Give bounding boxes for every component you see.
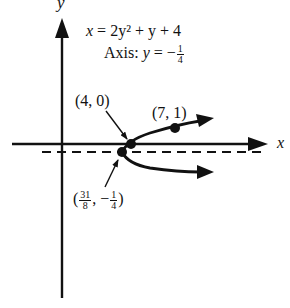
pointer-4-0 (106, 111, 127, 139)
x-axis-arrow-icon (248, 137, 268, 151)
fraction: 14 (177, 44, 184, 65)
y-axis-label: y (57, 0, 65, 11)
x-axis-label: x (277, 135, 284, 151)
pointer-vertex (105, 160, 118, 187)
parabola-diagram: y x x = 2y² + y + 4 Axis: y = −14 (4, 0)… (0, 0, 290, 308)
lower-branch-arrow-icon (197, 165, 214, 179)
x-axis (12, 137, 268, 151)
parabola-lower-branch (122, 152, 200, 172)
axis-of-symmetry-label: Axis: y = −14 (104, 44, 185, 65)
point-label-4-0: (4, 0) (75, 93, 110, 109)
point-7-1 (170, 123, 180, 133)
point-label-7-1: (7, 1) (152, 105, 187, 121)
upper-branch-arrow-icon (196, 114, 214, 127)
vertex-label: (318, −14) (73, 190, 124, 211)
y-axis-arrow-icon (55, 18, 69, 38)
fraction: 14 (110, 190, 117, 211)
y-axis (55, 18, 69, 298)
vertex-point (117, 147, 127, 157)
fraction: 318 (79, 190, 91, 211)
equation-label: x = 2y² + y + 4 (86, 23, 181, 39)
point-4-0 (126, 139, 136, 149)
